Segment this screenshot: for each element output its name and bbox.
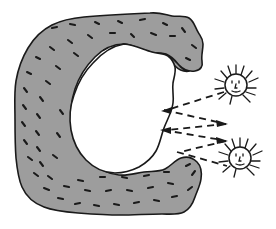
ray-middle-reflected xyxy=(163,130,222,140)
diagram-svg xyxy=(0,0,276,229)
ray-arrowheads xyxy=(160,107,228,144)
figure-canvas: Light rays reflecting between suns and a… xyxy=(0,0,276,229)
lower-sun xyxy=(219,138,262,177)
ray-upper-reflected xyxy=(164,110,222,123)
arrowhead-right-upper xyxy=(216,120,228,127)
ray-upper-incoming xyxy=(167,92,224,110)
upper-sun xyxy=(215,65,258,104)
arrowhead-right-lower xyxy=(216,137,228,144)
cave-group xyxy=(15,13,203,215)
